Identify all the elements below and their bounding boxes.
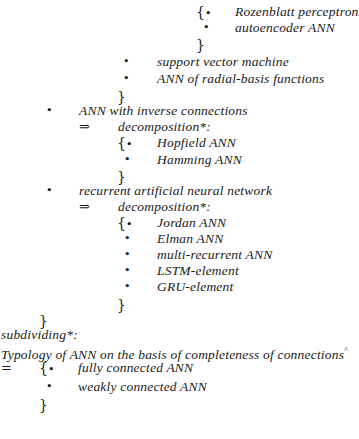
list-item-gru-element: GRU-element xyxy=(157,279,233,295)
inverse-connections-label: ANN with inverse connections xyxy=(79,103,248,119)
bullet-icon: • xyxy=(124,263,131,279)
implies-icon: ⇒ xyxy=(79,199,90,215)
close-brace: } xyxy=(196,37,205,53)
list-item-radial-basis-ann: ANN of radial-basis functions xyxy=(157,71,324,87)
list-item-weakly-connected-ann: weakly connected ANN xyxy=(78,379,207,395)
bullet-icon: • xyxy=(124,279,131,295)
bullet-icon: • xyxy=(126,218,133,231)
subdividing-relation: subdividing*: xyxy=(1,327,78,343)
typology-group-open: {• xyxy=(39,360,54,378)
bullet-icon: • xyxy=(48,363,55,376)
list-item-lstm-element: LSTM-element xyxy=(157,263,239,279)
list-item-hamming-ann: Hamming ANN xyxy=(157,152,242,168)
open-brace: { xyxy=(117,215,126,231)
list-item-rozenblatt-perceptron: Rozenblatt perceptron xyxy=(235,4,359,20)
bullet-icon: • xyxy=(123,54,130,70)
bullet-icon: • xyxy=(124,231,131,247)
list-item-fully-connected-ann: fully connected ANN xyxy=(78,360,193,376)
bullet-icon: • xyxy=(46,103,53,119)
recurrent-decomposition-relation: decomposition*: xyxy=(118,199,211,215)
list-item-multi-recurrent-ann: multi-recurrent ANN xyxy=(157,247,272,263)
bullet-icon: • xyxy=(123,71,130,87)
inverse-group-open: {• xyxy=(117,135,132,153)
open-brace: { xyxy=(196,4,205,20)
typology-title-mark: ^ xyxy=(344,346,348,355)
open-brace: { xyxy=(39,360,48,376)
bullet-icon: • xyxy=(203,20,210,36)
bullet-icon: • xyxy=(46,183,53,199)
recurrent-ann-label: recurrent artificial neural network xyxy=(79,183,272,199)
equals-icon: = xyxy=(1,360,12,376)
bullet-icon: • xyxy=(124,247,131,263)
list-item-jordan-ann: Jordan ANN xyxy=(157,215,226,231)
list-item-hopfield-ann: Hopfield ANN xyxy=(157,135,236,151)
bullet-icon: • xyxy=(46,379,53,395)
list-item-elman-ann: Elman ANN xyxy=(157,231,223,247)
close-brace: } xyxy=(117,297,126,313)
bullet-icon: • xyxy=(126,138,133,151)
bullet-icon: • xyxy=(124,152,131,168)
implies-icon: ⇒ xyxy=(79,119,90,135)
inverse-decomposition-relation: decomposition*: xyxy=(118,119,211,135)
list-item-autoencoder-ann: autoencoder ANN xyxy=(235,20,335,36)
list-item-support-vector-machine: support vector machine xyxy=(157,54,289,70)
bullet-icon: • xyxy=(205,7,212,20)
open-brace: { xyxy=(117,135,126,151)
close-brace: } xyxy=(39,397,48,413)
